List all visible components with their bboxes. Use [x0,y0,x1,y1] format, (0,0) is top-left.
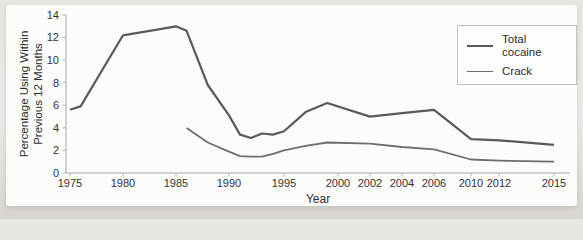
legend-item-crack: Crack [467,65,568,78]
y-tick-label: 2 [53,144,59,156]
x-tick-label: 2010 [459,177,483,189]
y-tick-label: 12 [47,31,59,43]
scanned-figure-page: 0246810121419751980198519901995200020022… [0,0,583,219]
y-tick-label: 14 [47,9,59,21]
x-tick-label: 1985 [164,177,188,189]
y-tick-label: 10 [47,54,59,66]
x-tick-label: 2000 [326,177,350,189]
y-axis-title: Percentage Using Within Previous 12 Mont… [18,31,45,158]
crack-line-swatch [467,71,493,73]
x-tick-label: 2004 [390,177,414,189]
y-tick-label: 8 [53,77,59,89]
legend-label-crack: Crack [502,65,532,78]
x-tick-label: 2012 [487,177,511,189]
x-tick-label: 2006 [422,177,446,189]
y-axis-title-line1: Percentage Using Within [18,31,32,158]
x-axis-title: Year [306,192,330,206]
x-tick-label: 1975 [58,177,82,189]
series-line-crack [187,128,554,162]
total-cocaine-line-swatch [467,45,493,47]
x-tick-label: 2015 [542,177,566,189]
y-axis-title-line2: Previous 12 Months [31,31,45,158]
y-tick-label: 6 [53,99,59,111]
y-tick-label: 4 [53,122,59,134]
x-tick-label: 2002 [358,177,382,189]
legend-item-total-cocaine: Total cocaine [467,33,568,59]
legend-label-total-cocaine: Total cocaine [502,33,568,59]
x-tick-label: 1980 [111,177,135,189]
legend: Total cocaine Crack [457,25,577,85]
x-tick-label: 1990 [217,177,241,189]
x-tick-label: 1995 [272,177,296,189]
